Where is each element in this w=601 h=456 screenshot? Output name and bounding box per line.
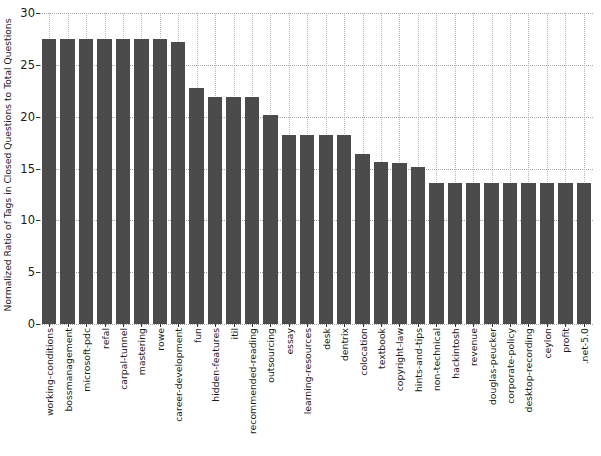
bar	[79, 39, 93, 324]
x-tick-label: learning-resources	[302, 328, 313, 414]
x-tick-mark	[68, 324, 69, 327]
x-tick-mark	[141, 324, 142, 327]
bar	[189, 88, 203, 324]
bar	[153, 39, 167, 324]
x-tick-label: non-technical	[431, 328, 442, 391]
bar	[319, 135, 333, 324]
x-tick-mark	[381, 324, 382, 327]
bar-chart-figure: Normalized Ratio of Tags in Closed Quest…	[0, 0, 601, 456]
x-tick-mark	[418, 324, 419, 327]
x-tick-label: refal	[99, 328, 110, 349]
bar	[411, 167, 425, 324]
x-tick-mark	[326, 324, 327, 327]
x-tick-label: dentrix	[339, 328, 350, 361]
x-tick-label: mastering	[136, 328, 147, 375]
x-tick-label: microsoft-pdc	[81, 328, 92, 392]
x-tick-label: recommended-reading	[246, 328, 257, 434]
x-tick-mark	[123, 324, 124, 327]
y-tick-label: 0	[7, 317, 35, 331]
bar	[282, 135, 296, 324]
bar	[558, 183, 572, 324]
x-tick-mark	[289, 324, 290, 327]
bar	[484, 183, 498, 324]
x-tick-label: colocation	[357, 328, 368, 376]
x-tick-mark	[565, 324, 566, 327]
x-tick-mark	[215, 324, 216, 327]
bar	[392, 163, 406, 324]
bar	[374, 162, 388, 324]
bar	[245, 97, 259, 324]
y-tick-label: 20	[7, 110, 35, 124]
bar	[263, 115, 277, 324]
bar	[116, 39, 130, 324]
bar	[97, 39, 111, 324]
x-tick-label: ceylon	[541, 328, 552, 359]
x-tick-label: desk	[320, 328, 331, 350]
x-tick-mark	[234, 324, 235, 327]
x-tick-mark	[197, 324, 198, 327]
bar	[429, 183, 443, 324]
bar	[134, 39, 148, 324]
bar	[540, 183, 554, 324]
y-tick-label: 30	[7, 6, 35, 20]
x-tick-label: hidden-features	[210, 328, 221, 402]
x-tick-label: essay	[283, 328, 294, 355]
x-tick-label: hackintosh	[449, 328, 460, 379]
plot-area	[40, 13, 593, 324]
x-tick-mark	[178, 324, 179, 327]
x-tick-mark	[105, 324, 106, 327]
bar	[577, 183, 591, 324]
x-tick-label: working-conditions	[44, 328, 55, 416]
bar	[466, 183, 480, 324]
x-tick-label: profit	[560, 328, 571, 353]
x-tick-label: copyright-law	[394, 328, 405, 391]
x-tick-label: .net-5.0	[578, 328, 589, 364]
x-tick-label: corporate-policy	[505, 328, 516, 404]
bar	[300, 135, 314, 324]
x-tick-mark	[307, 324, 308, 327]
x-tick-mark	[510, 324, 511, 327]
x-tick-mark	[455, 324, 456, 327]
x-tick-mark	[473, 324, 474, 327]
x-tick-label: outsourcing	[265, 328, 276, 383]
x-tick-mark	[344, 324, 345, 327]
bar	[355, 154, 369, 324]
x-tick-label: career-development	[173, 328, 184, 422]
x-tick-mark	[399, 324, 400, 327]
x-tick-mark	[492, 324, 493, 327]
x-tick-label: rowe	[154, 328, 165, 351]
bar	[226, 97, 240, 324]
x-tick-mark	[270, 324, 271, 327]
y-tick-label: 5	[7, 265, 35, 279]
x-tick-label: revenue	[468, 328, 479, 366]
bar	[448, 183, 462, 324]
y-tick-label: 10	[7, 213, 35, 227]
x-tick-label: carpal-tunnel	[117, 328, 128, 390]
bar	[337, 135, 351, 324]
x-tick-label: bossmanagement	[62, 328, 73, 412]
x-tick-label: hints-and-tips	[412, 328, 423, 392]
x-tick-label: fun	[191, 328, 202, 343]
bar	[208, 97, 222, 324]
x-tick-label: desktop-recording	[523, 328, 534, 413]
bar	[42, 39, 56, 324]
bar	[171, 42, 185, 324]
x-tick-label: itil	[228, 328, 239, 339]
x-tick-label: douglas-peucker	[486, 328, 497, 405]
x-tick-mark	[49, 324, 50, 327]
x-tick-mark	[252, 324, 253, 327]
x-tick-mark	[160, 324, 161, 327]
x-tick-mark	[363, 324, 364, 327]
x-tick-mark	[86, 324, 87, 327]
y-tick-label: 15	[7, 162, 35, 176]
x-tick-mark	[584, 324, 585, 327]
bar	[503, 183, 517, 324]
bar	[521, 183, 535, 324]
x-tick-label: textbook	[376, 328, 387, 369]
bar	[60, 39, 74, 324]
x-tick-mark	[436, 324, 437, 327]
y-tick-label: 25	[7, 58, 35, 72]
